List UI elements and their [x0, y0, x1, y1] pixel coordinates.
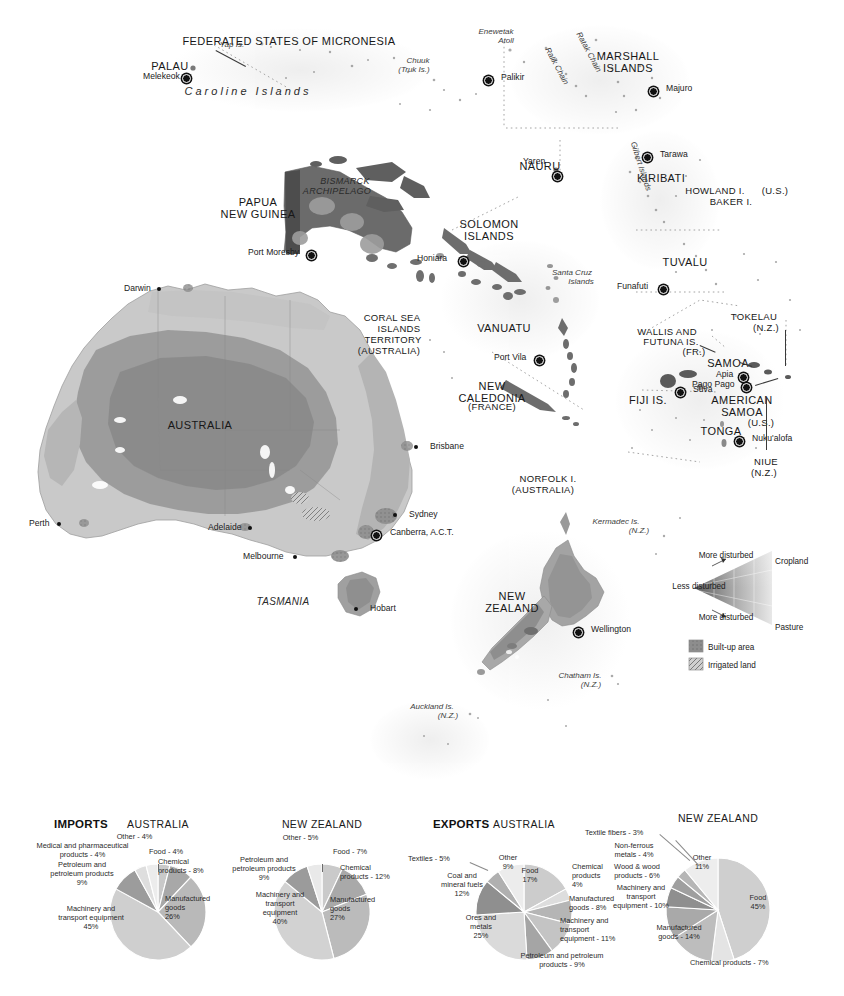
map-territory-label-n-z: (N.Z.): [751, 468, 777, 479]
map-city-label-pago-pago: Pago Pago: [692, 380, 735, 390]
legend-more-disturbed-top: More disturbed: [698, 551, 754, 561]
map-city-label-melbourne: Melbourne: [243, 552, 284, 562]
pie-slice-label-exports-australia-petroleum-and-petroleum-products-9: Petroleum and petroleum products - 9%: [497, 951, 627, 969]
map-physical-label-archipelago: ARCHIPELAGO: [303, 186, 371, 196]
map-physical-label-caroline-islands: Caroline Islands: [185, 85, 312, 97]
pie-slice-label-imports-new-zealand-machinery-and-transport-equipment-40: Machinery and transport equipment 40%: [240, 890, 320, 926]
map-physical-label-n-z: (N.Z.): [629, 527, 649, 536]
map-city-marker-hobart: [354, 607, 358, 611]
map-legend: More disturbed Less disturbed More distu…: [672, 545, 838, 675]
map-city-label-brisbane: Brisbane: [430, 442, 464, 452]
map-city-label-palikir: Palikir: [501, 73, 524, 83]
pie-slice-label-exports-new-zealand-other-11: Other 11%: [680, 853, 724, 871]
map-city-marker-melbourne: [293, 555, 297, 559]
map-city-marker-apia: [739, 373, 748, 382]
pie-slice-chemical-products-4[interactable]: [524, 889, 570, 912]
map-city-marker-honiara: [459, 257, 468, 266]
map-territory-label-australia: (AUSTRALIA): [358, 346, 420, 357]
map-territory-label-australia: (AUSTRALIA): [512, 485, 574, 496]
map-city-label-melekeok: Melekeok: [143, 72, 180, 82]
map-physical-label-islands: Islands: [568, 278, 593, 287]
map-country-label-new-zealand: NEWZEALAND: [485, 590, 539, 615]
pie-slice-label-exports-new-zealand-machinery-and-transport-equipment-10: Machinery and transport equipment - 10%: [596, 883, 686, 910]
map-city-marker-wellington: [574, 628, 583, 637]
map-city-label-funafuti: Funafuti: [617, 282, 648, 292]
pie-slice-label-imports-australia-machinery-and-transport-equipment-45: Machinery and transport equipment 45%: [36, 904, 146, 931]
map-country-label-tonga: TONGA: [701, 425, 742, 437]
map-physical-label-n-z: (N.Z.): [581, 681, 601, 690]
map-city-marker-brisbane: [414, 445, 418, 449]
map-city-marker-yaren: [553, 172, 562, 181]
map-sublabel-france: (FRANCE): [468, 402, 516, 413]
map-city-marker-tarawa: [643, 153, 652, 162]
pie-slice-label-exports-australia-other-9: Other 9%: [487, 853, 529, 871]
map-country-label-american-samoa: AMERICANSAMOA: [711, 394, 772, 419]
legend-more-disturbed-bottom: More disturbed: [698, 613, 754, 623]
map-physical-label-yap-is: Yap Is.: [220, 41, 244, 50]
pie-slice-label-imports-australia-other-4: Other - 4%: [102, 832, 167, 841]
map-sublabel-u-s: (U.S.): [748, 418, 775, 429]
pie-slice-label-exports-new-zealand-food-45: Food 45%: [736, 893, 780, 911]
legend-pasture: Pasture: [775, 623, 803, 633]
map-city-label-canberra-a-c-t: Canberra, A.C.T.: [390, 528, 454, 538]
map-leader-line: [766, 398, 767, 450]
pie-slice-label-exports-new-zealand-wood-wood-products-6: Wood & wood products - 6%: [597, 862, 677, 880]
pie-slice-label-exports-australia-ores-and-metals-25: Ores and metals 25%: [450, 913, 512, 940]
map-city-label-hobart: Hobart: [370, 604, 396, 614]
map-city-label-perth: Perth: [29, 519, 50, 529]
map-city-label-tarawa: Tarawa: [660, 150, 688, 160]
pie-slice-label-imports-australia-medical-and-pharmaceutical-products-4: Medical and pharmaceutical products - 4%: [5, 841, 160, 859]
map-city-marker-majuro: [649, 87, 658, 96]
map-city-label-adelaide: Adelaide: [208, 523, 241, 533]
map-city-label-yaren: Yaren: [523, 157, 545, 167]
map-territory-label-u-s: (U.S.): [762, 186, 789, 197]
map-city-marker-port-vila: [535, 356, 544, 365]
map-country-label-solomon-islands: SOLOMONISLANDS: [459, 218, 518, 243]
map-city-marker-perth: [57, 522, 61, 526]
pie-slice-label-imports-australia-petroleum-and-petroleum-products-9: Petroleum and petroleum products 9%: [30, 860, 134, 887]
map-physical-label-n-z: (N.Z.): [438, 712, 458, 721]
map-city-marker-canberra-a-c-t: [372, 531, 381, 540]
map-physical-label-truk-is: (Truk Is.): [398, 66, 429, 75]
map-physical-label-atoll: Atoll: [498, 37, 514, 46]
map-territory-label-n-z: (N.Z.): [753, 323, 779, 334]
map-territory-label-fr: (FR.): [682, 347, 705, 358]
pie-title-exports-australia: AUSTRALIA: [454, 818, 594, 830]
pie-slice-label-exports-new-zealand-non-ferrous-metals-4: Non-ferrous metals - 4%: [598, 841, 670, 859]
map-country-label-tuvalu: TUVALU: [663, 256, 708, 268]
pie-label-tick: [322, 864, 323, 872]
pie-slice-label-imports-new-zealand-other-5: Other - 5%: [268, 833, 333, 842]
map-country-label-papua-new-guinea: PAPUANEW GUINEA: [221, 196, 296, 221]
pie-leader-line: [470, 862, 488, 871]
pie-slice-label-exports-new-zealand-manufactured-goods-14: Manufactured goods - 14%: [639, 923, 719, 941]
pie-slice-label-imports-new-zealand-petroleum-and-petroleum-products-9: Petroleum and petroleum products 9%: [212, 855, 316, 882]
pie-slice-label-imports-australia-manufactured-goods-26: Manufactured goods 26%: [165, 894, 235, 921]
map-country-label-vanuatu: VANUATU: [477, 322, 531, 334]
map-leader-line: [785, 330, 786, 366]
map-country-label-marshall-islands: MARSHALLISLANDS: [597, 50, 660, 75]
pie-slice-label-imports-new-zealand-chemical-products-12: Chemical products - 12%: [340, 863, 416, 881]
map-city-marker-suva: [676, 388, 685, 397]
legend-irrigated-land-label: Irrigated land: [708, 661, 756, 671]
map-physical-label-bismarck: BISMARCK: [320, 176, 369, 186]
pie-slice-other-4[interactable]: [146, 864, 158, 912]
trade-charts-panel: IMPORTS EXPORTS AUSTRALIAFood - 4%Chemic…: [0, 800, 844, 996]
map-city-label-darwin: Darwin: [124, 284, 151, 294]
pie-slice-label-exports-new-zealand-textile-fibers-3: Textile fibers - 3%: [585, 828, 671, 837]
map-city-marker-funafuti: [659, 285, 668, 294]
legend-built-up-area-label: Built-up area: [708, 643, 754, 653]
map-city-marker-adelaide: [248, 526, 252, 530]
map-city-marker-sydney: [393, 513, 397, 517]
map-city-marker-palikir: [484, 76, 493, 85]
map-city-marker-pago-pago: [742, 383, 751, 392]
pie-title-imports-australia: AUSTRALIA: [88, 818, 228, 830]
map-city-marker-port-moresby: [307, 251, 316, 260]
map-city-label-wellington: Wellington: [591, 625, 631, 635]
legend-cropland: Cropland: [775, 557, 808, 567]
map-country-label-federated-states-of-micronesia: FEDERATED STATES OF MICRONESIA: [182, 35, 395, 47]
map-physical-label-tasmania: TASMANIA: [257, 596, 310, 607]
map-city-marker-nuku-alofa: [735, 437, 744, 446]
map-country-label-australia: AUSTRALIA: [168, 419, 233, 431]
oceania-map-panel: PALAUFEDERATED STATES OF MICRONESIAMARSH…: [0, 0, 844, 800]
map-city-label-honiara: Honiara: [417, 254, 447, 264]
